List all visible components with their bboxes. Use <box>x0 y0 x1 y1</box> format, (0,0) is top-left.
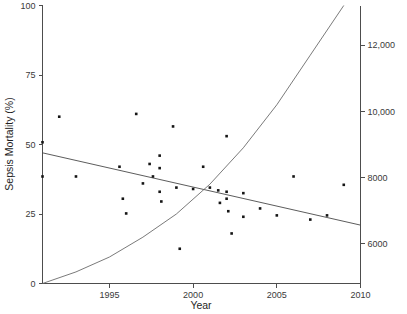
y-tick-label: 0 <box>30 279 35 289</box>
y2-tick-label: 12,000 <box>368 40 396 50</box>
trend-lines-group <box>43 6 361 284</box>
y2-axis-ticks: 6000800010,00012,000 <box>361 40 396 249</box>
y-tick-label: 50 <box>25 140 35 150</box>
data-point <box>242 192 245 195</box>
data-point <box>326 214 329 217</box>
data-point <box>225 190 228 193</box>
data-point <box>342 184 345 187</box>
x-axis-title: Year <box>190 299 212 311</box>
data-point <box>276 214 279 217</box>
data-point <box>118 165 121 168</box>
y-tick-label: 75 <box>25 70 35 80</box>
data-point <box>209 186 212 189</box>
sepsis-cases-curve <box>43 6 344 284</box>
data-point <box>158 190 161 193</box>
y2-tick-label: 6000 <box>368 239 388 249</box>
x-tick-label: 1995 <box>99 290 119 300</box>
data-point <box>160 200 163 203</box>
data-point <box>135 113 138 116</box>
data-point <box>158 154 161 157</box>
data-point <box>292 175 295 178</box>
y-axis-title: Sepsis Mortality (%) <box>3 97 15 190</box>
data-point <box>175 186 178 189</box>
data-point <box>227 210 230 213</box>
data-point <box>242 215 245 218</box>
data-point <box>217 189 220 192</box>
data-points-group <box>41 113 345 250</box>
data-point <box>75 175 78 178</box>
data-point <box>125 212 128 215</box>
data-point <box>148 163 151 166</box>
y2-tick-label: 10,000 <box>368 107 396 117</box>
x-tick-label: 2010 <box>350 290 370 300</box>
data-point <box>122 197 125 200</box>
y-tick-label: 100 <box>20 1 35 11</box>
data-point <box>172 125 175 128</box>
data-point <box>225 197 228 200</box>
x-tick-label: 2000 <box>183 290 203 300</box>
data-point <box>219 202 222 205</box>
data-point <box>41 141 44 144</box>
data-point <box>41 175 44 178</box>
y-axis-ticks: 0255075100 <box>20 1 42 289</box>
data-point <box>309 218 312 221</box>
data-point <box>142 182 145 185</box>
y2-tick-label: 8000 <box>368 173 388 183</box>
data-point <box>152 175 155 178</box>
x-tick-label: 2005 <box>267 290 287 300</box>
data-point <box>225 135 228 138</box>
mortality-trend-line <box>43 153 361 225</box>
scatter-plot-svg: 0255075100 6000800010,00012,000 19952000… <box>0 0 407 314</box>
data-point <box>58 115 61 118</box>
data-point <box>230 232 233 235</box>
y-tick-label: 25 <box>25 209 35 219</box>
data-point <box>259 207 262 210</box>
data-point <box>202 165 205 168</box>
data-point <box>192 188 195 191</box>
data-point <box>158 167 161 170</box>
data-point <box>178 247 181 250</box>
x-axis-ticks: 1995200020052010 <box>99 284 370 300</box>
plot-frame <box>43 6 361 284</box>
chart-figure: 0255075100 6000800010,00012,000 19952000… <box>0 0 407 314</box>
